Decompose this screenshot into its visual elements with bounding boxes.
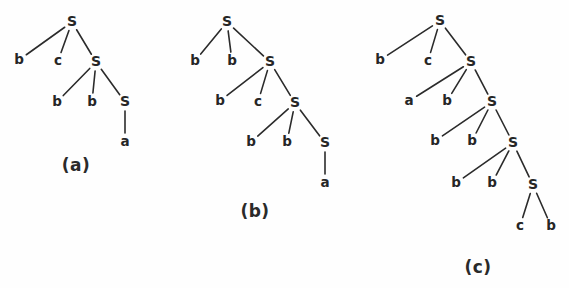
tree-node-terminal-a: a — [404, 92, 413, 108]
tree-node-terminal-a: a — [120, 133, 129, 149]
tree-node-terminal-b: b — [442, 92, 452, 108]
tree-edge — [201, 29, 222, 54]
tree-node-terminal-b: b — [227, 52, 237, 68]
tree-edge — [63, 68, 89, 95]
tree-node-terminal-b: b — [14, 51, 24, 67]
tree-edge — [475, 70, 488, 94]
tree-edge — [496, 151, 509, 175]
tree-node-terminal-b: b — [87, 93, 97, 109]
tree-node-terminal-b: b — [546, 217, 556, 233]
tree-edge — [234, 28, 264, 56]
tree-edge — [445, 28, 465, 55]
tree-node-terminal-c: c — [424, 52, 432, 68]
tree-edge — [275, 70, 291, 96]
tree-edge — [517, 151, 529, 177]
subfigure-caption: (c) — [464, 257, 491, 277]
tree-node-nonterminal-S: S — [265, 53, 275, 69]
derivation-trees-figure: SbcSbbSa(a)SbbSbcSbbSa(b)SbcSabSbbSbbScb… — [0, 0, 569, 288]
tree-node-terminal-b: b — [430, 132, 440, 148]
tree-node-terminal-a: a — [320, 174, 329, 190]
tree-node-terminal-b: b — [190, 52, 200, 68]
tree-edge — [258, 109, 289, 136]
parse-tree-a: SbcSbbSa(a) — [14, 13, 130, 175]
tree-edge — [289, 112, 293, 133]
tree-nodes: SbbSbcSbbSa — [190, 13, 330, 190]
tree-edge — [388, 26, 433, 55]
tree-edge — [261, 71, 268, 94]
tree-node-terminal-b: b — [451, 174, 461, 190]
tree-edge — [26, 27, 64, 55]
tree-node-terminal-b: b — [246, 133, 256, 149]
tree-node-terminal-b: b — [52, 93, 62, 109]
figure-container: SbcSbbSa(a)SbbSbcSbbSa(b)SbcSabSbbSbbScb… — [0, 0, 569, 288]
tree-node-terminal-c: c — [254, 93, 262, 109]
tree-node-nonterminal-S: S — [508, 134, 518, 150]
tree-edge — [300, 110, 319, 136]
tree-edge — [431, 30, 438, 53]
tree-node-terminal-b: b — [467, 132, 477, 148]
tree-edge — [417, 67, 464, 96]
tree-edge — [101, 69, 119, 94]
tree-edge — [463, 148, 505, 178]
tree-edge — [77, 30, 92, 55]
tree-node-terminal-b: b — [375, 51, 385, 67]
tree-node-terminal-b: b — [215, 92, 225, 108]
tree-node-nonterminal-S: S — [290, 94, 300, 110]
tree-node-nonterminal-S: S — [320, 134, 330, 150]
tree-edge — [227, 68, 263, 96]
tree-node-terminal-c: c — [516, 217, 524, 233]
tree-node-nonterminal-S: S — [466, 53, 476, 69]
tree-edge — [496, 110, 509, 135]
tree-nodes: SbcSbbSa — [14, 13, 130, 149]
tree-edge — [476, 110, 488, 133]
tree-edge — [523, 194, 531, 218]
trees-layer: SbcSbbSa(a)SbbSbcSbbSa(b)SbcSabSbbSbbScb… — [14, 12, 556, 277]
subfigure-caption: (a) — [62, 155, 91, 175]
subfigure-caption: (b) — [240, 201, 269, 221]
tree-node-terminal-c: c — [54, 52, 62, 68]
tree-node-nonterminal-S: S — [120, 93, 130, 109]
tree-edge — [61, 30, 69, 52]
tree-node-nonterminal-S: S — [487, 93, 497, 109]
tree-edges — [26, 27, 125, 133]
tree-edge — [442, 107, 484, 136]
tree-node-nonterminal-S: S — [222, 13, 232, 29]
tree-node-terminal-b: b — [282, 133, 292, 149]
tree-node-nonterminal-S: S — [435, 12, 445, 28]
tree-edge — [537, 193, 548, 218]
parse-tree-c: SbcSabSbbSbbScb(c) — [375, 12, 556, 277]
tree-node-nonterminal-S: S — [67, 13, 77, 29]
tree-node-nonterminal-S: S — [91, 53, 101, 69]
tree-edge — [228, 31, 231, 52]
tree-edge — [93, 71, 95, 93]
tree-node-terminal-b: b — [487, 174, 497, 190]
tree-node-nonterminal-S: S — [528, 176, 538, 192]
parse-tree-b: SbbSbcSbbSa(b) — [190, 13, 330, 221]
